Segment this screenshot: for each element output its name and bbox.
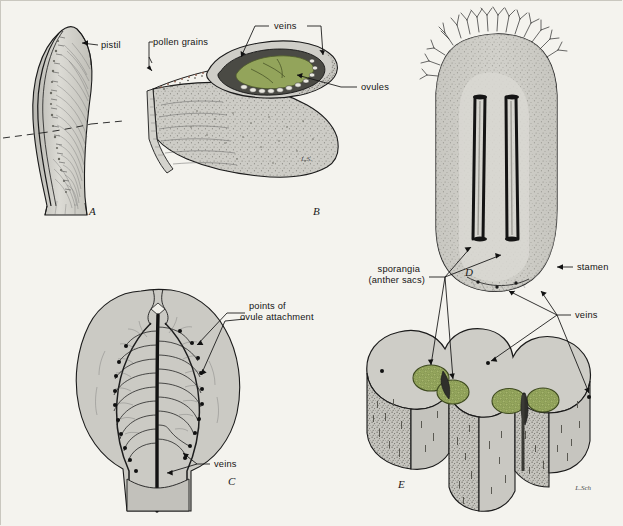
sporangium-slit-left-outer bbox=[473, 97, 475, 239]
label-sporangia-line2: (anther sacs) bbox=[368, 275, 425, 285]
sporangium-slit-left-inner bbox=[483, 97, 485, 239]
label-veins-panel-c: veins bbox=[214, 459, 237, 469]
figure-canvas: pistil A bbox=[1, 1, 623, 526]
label-stamen: stamen bbox=[577, 262, 609, 272]
label-veins-panel-e: veins bbox=[575, 310, 598, 320]
label-veins-panel-b: veins bbox=[274, 21, 297, 31]
artist-signature: L.Sch bbox=[574, 484, 591, 492]
label-points-of-ovule-attachment-line1: points of bbox=[249, 301, 286, 311]
midrib-vein bbox=[157, 315, 158, 511]
panel-letter-b: B bbox=[313, 205, 320, 217]
label-sporangia-line1: sporangia bbox=[378, 264, 421, 274]
label-pollen-grains: pollen grains bbox=[153, 37, 208, 47]
sporangium-slit-right-outer bbox=[516, 97, 518, 239]
sporangium-slit-right-inner bbox=[506, 97, 507, 239]
panel-letter-c: C bbox=[228, 475, 236, 487]
sporangium-core-right bbox=[511, 101, 512, 235]
label-ovules: ovules bbox=[361, 82, 389, 92]
panel-b-signature: L.S. bbox=[300, 155, 312, 163]
panel-letter-a: A bbox=[88, 205, 96, 217]
label-pistil: pistil bbox=[101, 40, 121, 50]
panel-letter-e: E bbox=[397, 478, 405, 490]
label-points-of-ovule-attachment-line2: ovule attachment bbox=[240, 312, 314, 322]
sporangium-cluster-4 bbox=[527, 388, 559, 412]
